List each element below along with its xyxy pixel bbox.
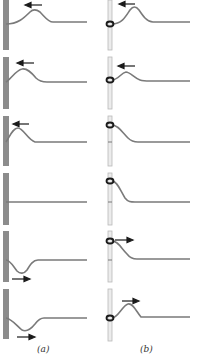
panel-b-free-end [107,0,191,341]
string [6,10,87,331]
rod [108,0,112,341]
string [112,7,190,318]
fixed-wall [3,0,9,339]
direction-arrows [12,3,42,340]
panel-b-label: (b) [140,344,153,354]
panel-a-fixed-end [3,0,87,340]
panel-a-label: (a) [37,344,49,354]
wave-reflection-diagram [0,0,204,358]
